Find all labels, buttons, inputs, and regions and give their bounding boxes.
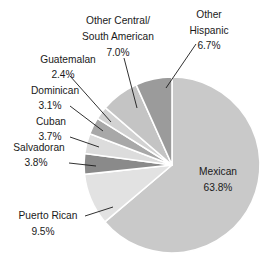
label-mexican-pct: 63.8%: [204, 182, 233, 193]
label-other-hispanic-pct: 6.7%: [197, 40, 220, 51]
leader-line-guatemalan: [70, 76, 111, 122]
label-other-central-south-pct: 7.0%: [106, 47, 129, 58]
label-other-hispanic-line1: Other: [196, 9, 222, 20]
label-guatemalan-pct: 2.4%: [51, 69, 74, 80]
label-dominican: Dominican: [31, 85, 79, 96]
label-other-hispanic-line2: Hispanic: [189, 25, 228, 36]
label-puerto-rican: Puerto Rican: [19, 210, 78, 221]
label-salvadoran-pct: 3.8%: [24, 157, 47, 168]
label-mexican: Mexican: [199, 166, 237, 177]
label-other-central-south-line1: Other Central/: [86, 15, 150, 26]
label-guatemalan: Guatemalan: [40, 54, 96, 65]
label-cuban: Cuban: [36, 116, 66, 127]
pie-chart-svg: Other Central/ South American 7.0% Other…: [0, 0, 276, 267]
label-cuban-pct: 3.7%: [38, 131, 61, 142]
label-other-central-south-line2: South American: [82, 31, 154, 42]
pie-chart-container: Other Central/ South American 7.0% Other…: [0, 0, 276, 267]
label-salvadoran: Salvadoran: [13, 142, 65, 153]
label-puerto-rican-pct: 9.5%: [31, 226, 54, 237]
label-dominican-pct: 3.1%: [38, 100, 61, 111]
